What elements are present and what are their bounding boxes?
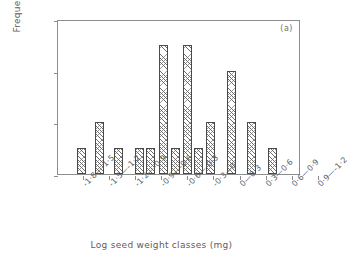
bar-series (58, 21, 299, 174)
y-tick (54, 176, 58, 177)
y-axis-title: Frequency (12, 0, 22, 53)
bar (227, 71, 236, 174)
y-tick (54, 124, 58, 125)
bar (77, 148, 86, 174)
x-tick-label: 0·9—-1·2 (316, 155, 349, 188)
y-tick (54, 73, 58, 74)
x-axis-title: Log seed weight classes (mg) (0, 240, 323, 250)
plot-area: (a) 0246 -1·8—-1·5-1·5—-1·2-1·2—-0·9-0·9… (57, 20, 300, 175)
y-tick (54, 21, 58, 22)
